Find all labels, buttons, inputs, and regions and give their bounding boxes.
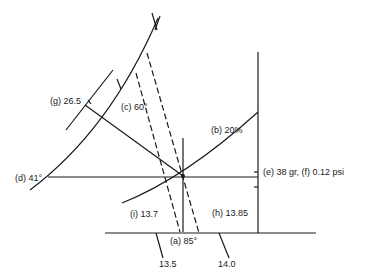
label-e-f: (e) 38 gr, (f) 0.12 psi xyxy=(263,167,344,177)
tick-13-5-line xyxy=(156,233,163,258)
tick-14-0-line xyxy=(219,233,229,258)
label-13-5: 13.5 xyxy=(159,259,177,269)
label-i: (i) 13.7 xyxy=(130,209,158,219)
tick-c xyxy=(117,79,121,89)
line-g-to-intersection xyxy=(85,105,183,176)
label-h: (h) 13.85 xyxy=(212,208,248,218)
intersection-point xyxy=(181,174,185,178)
label-b: (b) 20% xyxy=(211,125,243,135)
label-d: (d) 41° xyxy=(15,173,42,183)
label-a: (a) 85° xyxy=(170,236,197,246)
label-c: (c) 60° xyxy=(121,102,148,112)
label-14-0: 14.0 xyxy=(218,259,236,269)
label-g: (g) 26.5 xyxy=(50,96,81,106)
